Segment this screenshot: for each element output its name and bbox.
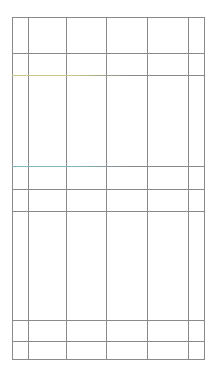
empty-table-grid	[0, 0, 211, 370]
table-row-divider	[12, 189, 205, 190]
table-row-divider	[12, 53, 205, 54]
table-row-divider	[12, 211, 205, 212]
table-row-divider	[12, 359, 205, 360]
table-row-divider	[12, 320, 205, 321]
table-row-divider	[12, 166, 205, 167]
table-row-divider	[12, 75, 205, 76]
table-row-divider	[12, 341, 205, 342]
table-row-divider	[12, 17, 205, 18]
